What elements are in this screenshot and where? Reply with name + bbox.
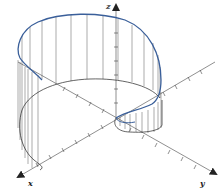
y-axis-label: y	[200, 178, 205, 188]
z-axis-label: z	[106, 1, 111, 11]
x-axis-label: x	[28, 178, 33, 188]
axes	[18, 5, 216, 177]
base-curve	[20, 79, 162, 170]
space-curve-diagram	[0, 0, 221, 191]
tick-marks	[36, 33, 202, 169]
